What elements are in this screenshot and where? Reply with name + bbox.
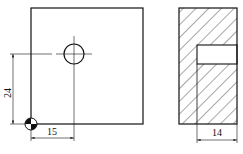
front-view <box>25 8 143 130</box>
dimension-14: 14 <box>197 124 237 143</box>
dimension-24: 24 <box>2 54 52 124</box>
section-view <box>179 8 237 124</box>
datum-symbol <box>25 118 37 130</box>
dimension-15-label: 15 <box>47 126 57 137</box>
slot <box>197 45 237 64</box>
dimension-24-label: 24 <box>2 88 13 98</box>
engineering-drawing: 24 15 14 <box>0 0 243 154</box>
dimension-15: 15 <box>31 72 74 141</box>
dimension-14-label: 14 <box>212 127 222 138</box>
